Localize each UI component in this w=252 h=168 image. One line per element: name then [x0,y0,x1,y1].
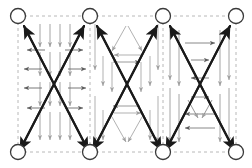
bold-arrow [93,26,157,150]
bold-arrow [97,26,161,150]
triangle-left-leg [112,26,126,51]
cell-middle-top-triangle [112,26,142,55]
graph-node-top-3[interactable] [156,9,171,24]
figure-container [0,0,252,168]
triangle-right-leg [128,26,142,51]
triangle-right-leg [128,117,142,142]
graph-node-top-1[interactable] [11,9,26,24]
bold-diagonal-arrows [20,26,234,150]
cell-right-chevrons [188,100,212,118]
triangle-left-leg [112,117,126,142]
graph-node-bottom-1[interactable] [11,145,26,160]
bold-arrow [170,26,234,150]
graph-diagram [0,0,252,168]
cell-left-horizontal-arrows [24,50,86,108]
graph-node-top-4[interactable] [229,9,244,24]
graph-node-bottom-3[interactable] [156,145,171,160]
graph-node-bottom-4[interactable] [229,145,244,160]
graph-node-bottom-2[interactable] [83,145,98,160]
cell-middle-bottom-triangle [112,113,142,142]
graph-node-top-2[interactable] [83,9,98,24]
